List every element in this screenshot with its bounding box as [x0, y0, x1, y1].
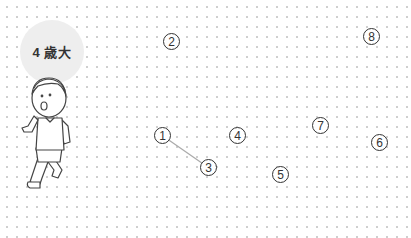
dot-number: 7: [317, 120, 324, 132]
dot-3[interactable]: 3: [200, 159, 217, 176]
dot-4[interactable]: 4: [229, 127, 246, 144]
dot-8[interactable]: 8: [363, 28, 380, 45]
dot-number: 5: [277, 169, 284, 181]
dot-number: 1: [159, 130, 166, 142]
dot-6[interactable]: 6: [371, 134, 388, 151]
dot-number: 6: [376, 137, 383, 149]
dot-number: 8: [368, 31, 375, 43]
dot-number: 4: [234, 130, 241, 142]
dot-5[interactable]: 5: [272, 166, 289, 183]
dot-7[interactable]: 7: [312, 117, 329, 134]
dot-to-dot-canvas[interactable]: 4 歳大 1 2 3 4 5 6 7 8: [0, 0, 411, 198]
dot-1[interactable]: 1: [154, 127, 171, 144]
dot-number: 2: [168, 36, 175, 48]
dot-2[interactable]: 2: [163, 33, 180, 50]
dot-number: 3: [205, 162, 212, 174]
